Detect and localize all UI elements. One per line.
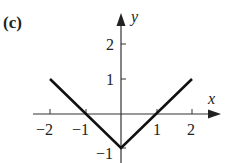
y-tick-label: 2 [106,36,114,53]
x-tick-label: 2 [187,121,195,138]
x-tick-label: 1 [153,121,161,138]
y-axis-label: y [129,8,139,26]
panel-label: (c) [3,13,22,32]
y-tick-label: 1 [106,71,114,88]
y-axis-arrow-icon [117,13,126,26]
x-tick-label: −1 [72,121,89,138]
y-tick-label: −1 [96,145,113,162]
y-ticks [121,44,126,148]
x-axis-arrow-icon [208,110,221,119]
chart: (c) −2 −1 1 2 2 1 −1 x y [0,0,225,163]
x-axis-label: x [207,90,215,107]
x-tick-label: −2 [36,121,53,138]
